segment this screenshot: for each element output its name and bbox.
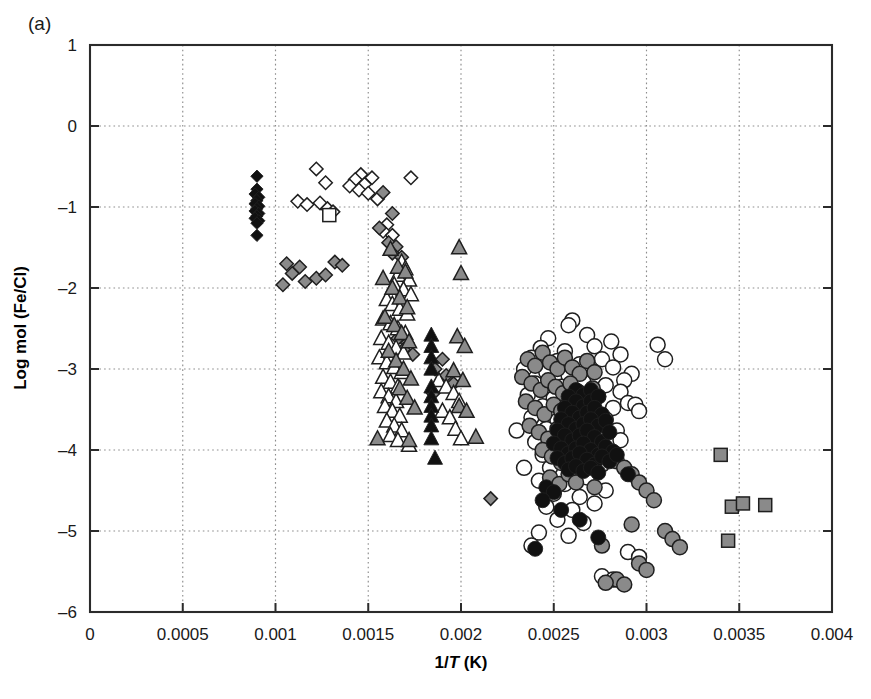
data-point-circle (554, 502, 569, 517)
data-point-circle (572, 512, 587, 527)
x-axis-title-suffix: (K) (459, 653, 487, 672)
data-point-square (714, 448, 727, 461)
y-tick-label: –4 (58, 441, 77, 460)
x-tick-label: 0.0035 (713, 625, 765, 644)
data-point-circle (617, 577, 632, 592)
data-point-circle (587, 365, 602, 380)
y-tick-label: –5 (58, 522, 77, 541)
y-tick-label: 0 (68, 117, 77, 136)
data-point-circle (609, 447, 624, 462)
x-axis-title-prefix: 1/ (435, 653, 449, 672)
y-tick-label: –1 (58, 198, 77, 217)
x-axis-title: 1/T (K) (435, 653, 488, 672)
data-point-circle (632, 404, 647, 419)
data-point-circle (620, 467, 635, 482)
data-point-circle (591, 530, 606, 545)
data-point-circle (587, 496, 602, 511)
y-tick-label: –2 (58, 279, 77, 298)
x-tick-label: 0.0005 (157, 625, 209, 644)
x-tick-label: 0.002 (440, 625, 483, 644)
data-point-circle (602, 425, 617, 440)
x-tick-label: 0.004 (811, 625, 854, 644)
data-point-circle (650, 337, 665, 352)
figure-panel-a: (a) 00.00050.0010.00150.0020.00250.0030.… (0, 0, 871, 699)
data-point-square (736, 497, 749, 510)
data-point-square (759, 499, 772, 512)
data-point-circle (598, 575, 613, 590)
x-tick-label: 0.0025 (528, 625, 580, 644)
data-point-square (323, 209, 336, 222)
data-point-square (722, 534, 735, 547)
data-point-circle (658, 352, 673, 367)
panel-label: (a) (28, 13, 51, 34)
data-point-circle (528, 541, 543, 556)
data-point-circle (561, 528, 576, 543)
data-point-circle (517, 460, 532, 475)
x-axis-tick-labels: 00.00050.0010.00150.0020.00250.0030.0035… (85, 625, 853, 644)
data-point-circle (672, 540, 687, 555)
y-tick-label: 1 (68, 36, 77, 55)
scatter-plot: (a) 00.00050.0010.00150.0020.00250.0030.… (0, 0, 871, 699)
y-axis-title: Log mol (Fe/Cl) (11, 266, 30, 390)
data-point-circle (587, 480, 602, 495)
data-point-circle (604, 334, 619, 349)
data-point-circle (606, 360, 621, 375)
data-point-circle (591, 465, 606, 480)
data-point-circle (639, 562, 654, 577)
y-tick-label: –6 (58, 603, 77, 622)
y-tick-label: –3 (58, 360, 77, 379)
x-tick-label: 0.0015 (342, 625, 394, 644)
data-point-circle (535, 493, 550, 508)
data-point-circle (646, 493, 661, 508)
x-tick-label: 0 (85, 625, 94, 644)
data-point-circle (561, 318, 576, 333)
data-point-circle (624, 517, 639, 532)
series-open-square (323, 209, 336, 222)
x-tick-label: 0.003 (625, 625, 668, 644)
x-tick-label: 0.001 (254, 625, 297, 644)
